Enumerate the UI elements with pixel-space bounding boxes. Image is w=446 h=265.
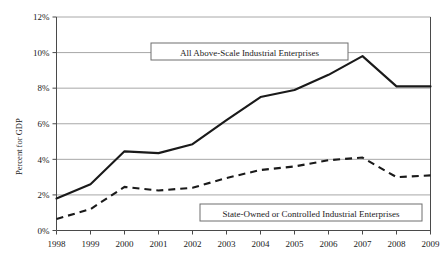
chart-container: 0%2%4%6%8%10%12% 19981999200020012002200… xyxy=(0,0,446,265)
y-axis-tick-label: 2% xyxy=(38,190,51,200)
x-axis-tick-label: 2008 xyxy=(388,239,407,249)
y-axis-tick-label: 12% xyxy=(33,12,50,22)
x-axis-tick-label: 2006 xyxy=(320,239,339,249)
x-axis-tick-label: 2000 xyxy=(116,239,135,249)
x-axis-tick-label: 2009 xyxy=(422,239,441,249)
x-axis-tick-label: 2001 xyxy=(150,239,168,249)
x-axis-tick-label: 1999 xyxy=(82,239,101,249)
x-axis-tick-label: 1998 xyxy=(48,239,67,249)
chart-background xyxy=(0,0,446,265)
line-chart: 0%2%4%6%8%10%12% 19981999200020012002200… xyxy=(0,0,446,265)
annotation-state-owned: State-Owned or Controlled Industrial Ent… xyxy=(200,204,422,221)
x-axis-tick-label: 2004 xyxy=(252,239,271,249)
x-axis-tick-label: 2007 xyxy=(354,239,373,249)
y-axis-tick-label: 0% xyxy=(38,226,51,236)
y-axis-tick-label: 8% xyxy=(38,83,51,93)
y-axis-tick-label: 10% xyxy=(33,48,50,58)
y-axis-title: Percent for GDP xyxy=(14,118,24,175)
y-axis-title-text: Percent for GDP xyxy=(14,118,24,175)
annotation-label-above-scale: All Above-Scale Industrial Enterprises xyxy=(180,48,320,58)
annotation-label-state-owned: State-Owned or Controlled Industrial Ent… xyxy=(223,209,400,219)
x-axis-tick-label: 2003 xyxy=(218,239,237,249)
x-axis-tick-label: 2005 xyxy=(286,239,305,249)
y-axis-tick-label: 4% xyxy=(38,155,51,165)
y-axis-tick-label: 6% xyxy=(38,119,51,129)
annotation-above-scale: All Above-Scale Industrial Enterprises xyxy=(151,43,348,60)
x-axis-tick-label: 2002 xyxy=(184,239,202,249)
